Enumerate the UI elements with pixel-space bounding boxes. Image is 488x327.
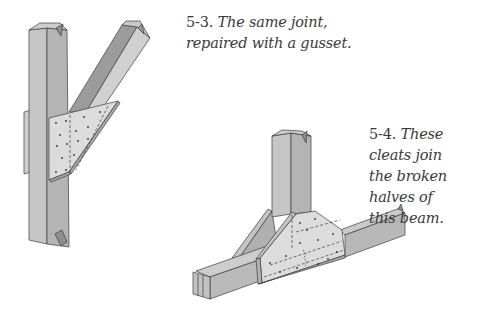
beam-left-end (193, 272, 210, 299)
post-left-face (272, 133, 291, 217)
caption-5-4-line-3: this beam. (369, 208, 488, 229)
caption-5-4-line-1: 5-4. These cleats join (369, 124, 488, 166)
figure-number: 5-4. (369, 126, 396, 142)
caption-5-3-line-2: repaired with a gusset. (186, 33, 351, 54)
figure-number: 5-3. (186, 14, 213, 30)
post-left-face (29, 28, 47, 244)
caption-text: The same joint, (218, 14, 328, 30)
caption-5-3: 5-3. The same joint, repaired with a gus… (186, 12, 351, 54)
post-right-face (291, 133, 311, 214)
caption-5-4: 5-4. These cleats join the broken halves… (369, 124, 488, 229)
caption-5-4-line-2: the broken halves of (369, 166, 488, 208)
figure-5-3-drawing (24, 21, 150, 247)
caption-5-3-line-1: 5-3. The same joint, (186, 12, 351, 33)
